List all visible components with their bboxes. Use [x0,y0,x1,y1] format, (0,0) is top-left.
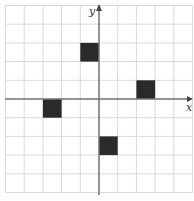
shaded-square [136,80,155,99]
shaded-square [43,99,62,118]
axes: x y [5,4,193,195]
coordinate-grid: x y [0,0,194,201]
y-axis-label: y [88,5,96,18]
shaded-square [99,136,118,155]
x-axis-label: x [186,101,193,114]
shaded-square [80,43,99,62]
